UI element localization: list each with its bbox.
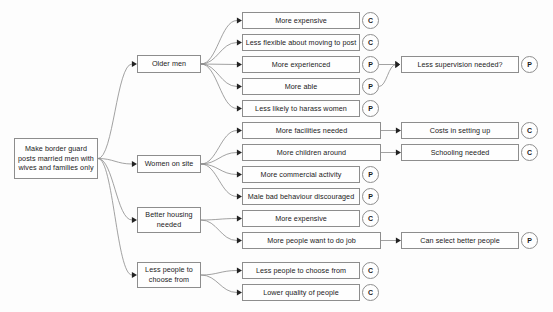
edge-b2-to-c9 <box>201 164 242 200</box>
node-less-likely-to-harass-women[interactable]: Less likely to harass women <box>242 100 360 117</box>
node-less-people-to-choose-from[interactable]: Less people to choose from <box>242 262 360 279</box>
node-lower-quality-of-people[interactable]: Lower quality of people <box>242 284 360 301</box>
node-more-able[interactable]: More able <box>242 78 360 95</box>
badge-positive-male-bad-behaviour-discouraged: P <box>362 188 379 205</box>
edge-c4-to-d1 <box>379 61 400 87</box>
edge-b3-to-c10 <box>201 215 242 221</box>
edge-b2-to-c8 <box>201 164 242 178</box>
node-more-expensive[interactable]: More expensive <box>242 210 360 227</box>
edge-b4-to-c13 <box>201 275 242 296</box>
edge-b3-to-c11 <box>201 220 242 244</box>
node-more-commercial-activity[interactable]: More commercial activity <box>242 166 360 183</box>
badge-positive-less-supervision-needed: P <box>521 56 538 73</box>
node-women-on-site[interactable]: Women on site <box>137 155 201 173</box>
edge-c7-to-d3 <box>381 149 401 155</box>
node-less-people-to-choose-from[interactable]: Less people to choose from <box>137 262 201 288</box>
edge-b1-to-c3 <box>201 61 242 67</box>
edge-c6-to-d2 <box>381 127 401 133</box>
diagram-canvas: Make border guard posts married men with… <box>0 0 553 312</box>
badge-consequence-more-expensive: C <box>362 210 379 227</box>
edge-b1-to-c2 <box>201 39 242 64</box>
badge-consequence-schooling-needed: C <box>521 144 538 161</box>
edge-root-to-b4 <box>98 159 137 279</box>
edge-b2-to-c7 <box>201 149 242 164</box>
badge-positive-less-likely-to-harass-women: P <box>362 100 379 117</box>
badge-positive-can-select-better-people: P <box>521 232 538 249</box>
node-better-housing-needed[interactable]: Better housing needed <box>137 207 201 233</box>
edge-c3-to-d1 <box>379 61 400 68</box>
node-older-men[interactable]: Older men <box>137 55 201 73</box>
node-less-supervision-needed[interactable]: Less supervision needed? <box>401 56 519 73</box>
edge-root-to-b2 <box>98 159 137 168</box>
badge-consequence-costs-in-setting-up: C <box>521 122 538 139</box>
node-more-experienced[interactable]: More experienced <box>242 56 360 73</box>
node-can-select-better-people[interactable]: Can select better people <box>401 232 519 249</box>
badge-positive-more-experienced: P <box>362 56 379 73</box>
edge-c11-to-d4 <box>381 237 401 243</box>
badge-positive-more-able: P <box>362 78 379 95</box>
badge-consequence-less-flexible-about-moving-to-post: C <box>362 34 379 51</box>
edge-b2-to-c6 <box>201 127 242 164</box>
edge-b1-to-c1 <box>201 17 242 64</box>
badge-consequence-more-expensive: C <box>362 12 379 29</box>
badge-consequence-lower-quality-of-people: C <box>362 284 379 301</box>
edge-b1-to-c5 <box>201 64 242 112</box>
node-less-flexible-about-moving-to-post[interactable]: Less flexible about moving to post <box>242 34 360 51</box>
node-schooling-needed[interactable]: Schooling needed <box>401 144 519 161</box>
edge-root-to-b1 <box>98 61 137 159</box>
badge-consequence-less-people-to-choose-from: C <box>362 262 379 279</box>
badge-positive-more-commercial-activity: P <box>362 166 379 183</box>
edge-b1-to-c4 <box>201 64 242 90</box>
node-more-facilities-needed[interactable]: More facilities needed <box>242 122 381 139</box>
edge-b4-to-c12 <box>201 267 242 275</box>
node-more-people-want-to-do-job[interactable]: More people want to do job <box>242 232 381 249</box>
node-more-children-around[interactable]: More children around <box>242 144 381 161</box>
node-costs-in-setting-up[interactable]: Costs in setting up <box>401 122 519 139</box>
node-male-bad-behaviour-discouraged[interactable]: Male bad behaviour discouraged <box>242 188 360 205</box>
node-make-border-guard-posts-married-men-with-wiv[interactable]: Make border guard posts married men with… <box>14 138 98 179</box>
node-more-expensive[interactable]: More expensive <box>242 12 360 29</box>
edge-root-to-b3 <box>98 159 137 224</box>
